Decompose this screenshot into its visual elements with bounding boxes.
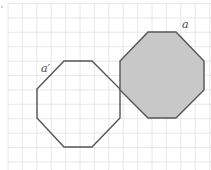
octagon-a	[120, 32, 204, 118]
label-a-prime: a′	[41, 62, 51, 75]
grid-diagram: a′ a	[0, 0, 211, 170]
label-a: a	[182, 18, 189, 31]
stray-mark	[1, 6, 3, 8]
